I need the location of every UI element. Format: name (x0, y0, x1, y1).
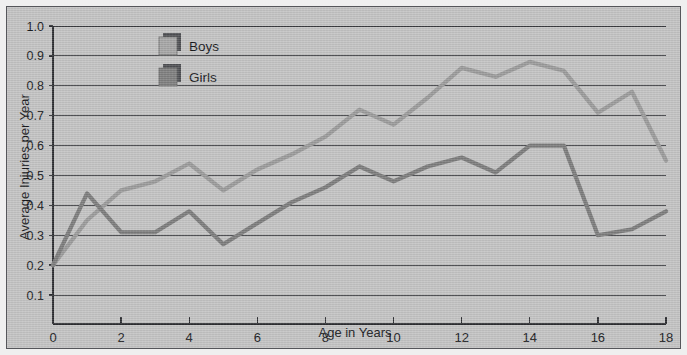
x-tick-label: 14 (523, 330, 537, 345)
chart-frame: 0.10.20.30.40.50.60.70.80.91.0 024681012… (6, 6, 681, 349)
gridlines-group (53, 26, 666, 295)
y-tick-label: 0.8 (27, 79, 44, 93)
legend-label-girls: Girls (189, 70, 217, 85)
chart-figure: 0.10.20.30.40.50.60.70.80.91.0 024681012… (0, 0, 687, 355)
series-line-boys (53, 62, 666, 265)
line-chart: 0.10.20.30.40.50.60.70.80.91.0 024681012… (7, 7, 681, 349)
x-tick-label: 18 (659, 330, 673, 345)
y-tick-label: 1.0 (27, 20, 44, 34)
x-axis-title: Age in Years (318, 325, 392, 340)
x-tick-label: 12 (454, 330, 468, 345)
legend: BoysGirls (159, 33, 219, 86)
series-group (53, 62, 666, 265)
x-tick-label: 2 (117, 330, 124, 345)
x-tick-label: 0 (49, 330, 56, 345)
legend-label-boys: Boys (189, 39, 219, 54)
y-tick-label: 0.2 (27, 259, 44, 273)
legend-swatch-boys (159, 37, 177, 55)
x-tick-label: 4 (186, 330, 193, 345)
x-tick-label: 6 (254, 330, 261, 345)
plot-area-wrapper: 0.10.20.30.40.50.60.70.80.91.0 024681012… (7, 7, 681, 349)
y-tick-label: 0.9 (27, 49, 44, 63)
y-axis-title: Average Injuries per Year (17, 93, 32, 239)
legend-swatch-girls (159, 68, 177, 86)
x-tick-label: 16 (591, 330, 605, 345)
y-tick-label: 0.1 (27, 289, 44, 303)
